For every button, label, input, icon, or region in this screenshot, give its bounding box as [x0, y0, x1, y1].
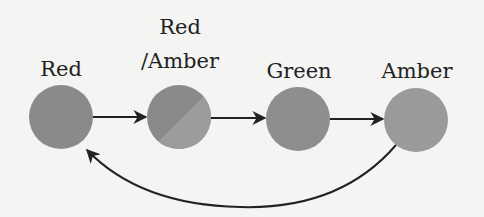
state-node-red — [29, 85, 93, 149]
state-label-red: Red — [40, 57, 82, 81]
state-label-red-amber-line1: Red — [159, 15, 201, 39]
state-label-green: Green — [266, 59, 331, 83]
state-label-amber: Amber — [381, 59, 454, 83]
traffic-light-diagram: Red Red /Amber Green Amber — [0, 0, 484, 217]
arrow-amber-to-red — [87, 145, 396, 207]
state-node-green — [266, 87, 330, 151]
state-node-amber — [384, 88, 448, 152]
state-label-red-amber-line2: /Amber — [141, 49, 220, 73]
